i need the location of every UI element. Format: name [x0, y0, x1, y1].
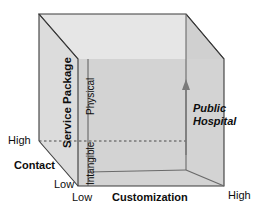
- annotation-public-hospital: Public Hospital: [193, 102, 236, 127]
- axis-tick-contact-high: High: [8, 135, 31, 146]
- axis-label-contact: Contact: [14, 160, 55, 171]
- annotation-public-hospital-line1: Public: [193, 102, 236, 115]
- axis-label-customization: Customization: [112, 192, 188, 203]
- cube-diagram: Service Package Physical Intangible High…: [0, 0, 258, 215]
- axis-tick-intangible: Intangible: [86, 142, 96, 185]
- axis-tick-customization-high: High: [228, 190, 251, 201]
- axis-tick-contact-low: Low: [54, 179, 74, 190]
- annotation-public-hospital-line2: Hospital: [193, 115, 236, 128]
- axis-tick-physical: Physical: [86, 78, 96, 115]
- axis-tick-customization-low: Low: [72, 192, 92, 203]
- axis-label-service-package: Service Package: [62, 57, 74, 148]
